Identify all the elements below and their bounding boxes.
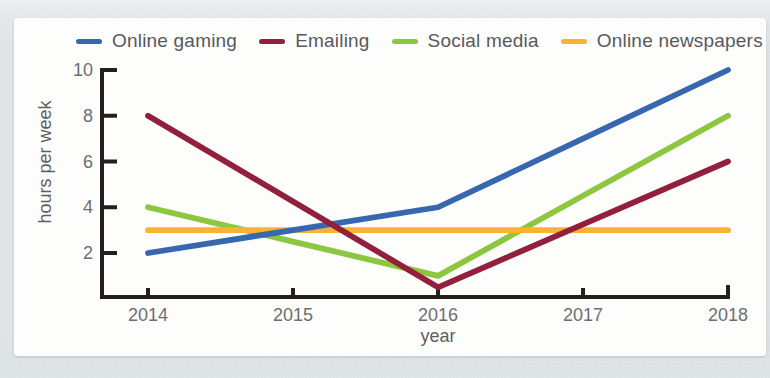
y-tick-label: 10 — [73, 60, 93, 80]
y-tick-label: 2 — [83, 243, 93, 263]
x-axis-title: year — [420, 326, 455, 347]
y-tick-label: 4 — [83, 197, 93, 217]
line-chart: 24681020142015201620172018 — [14, 18, 766, 356]
x-tick-label: 2015 — [273, 305, 313, 325]
series-line-emailing — [148, 116, 728, 288]
y-tick-label: 8 — [83, 106, 93, 126]
series-line-social-media — [148, 116, 728, 276]
x-tick-label: 2016 — [418, 305, 458, 325]
x-tick-label: 2018 — [708, 305, 748, 325]
photo-background: Online gamingEmailingSocial mediaOnline … — [0, 0, 770, 378]
x-tick-label: 2017 — [563, 305, 603, 325]
x-tick-label: 2014 — [128, 305, 168, 325]
y-tick-label: 6 — [83, 152, 93, 172]
chart-card: Online gamingEmailingSocial mediaOnline … — [14, 18, 766, 356]
axis-frame — [102, 70, 728, 297]
